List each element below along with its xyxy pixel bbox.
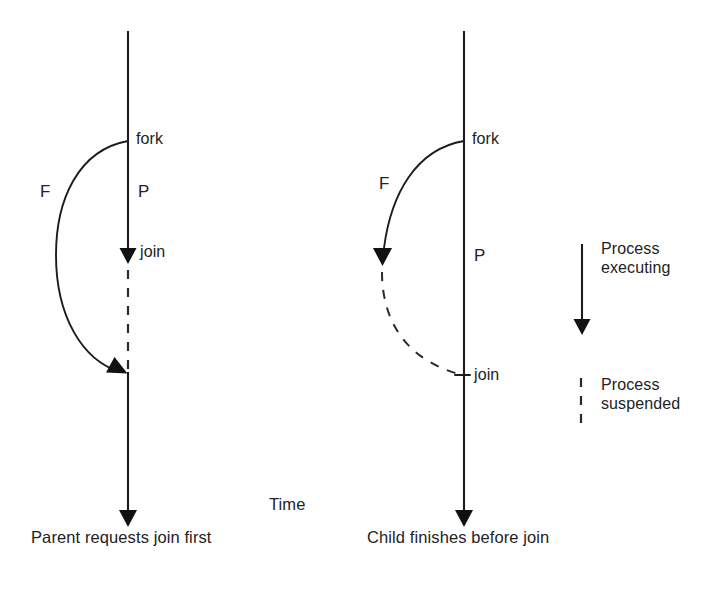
right-child-executing-curve bbox=[384, 141, 464, 248]
right-parent-label: P bbox=[474, 246, 485, 266]
legend-group bbox=[574, 244, 591, 430]
right-child-label: F bbox=[379, 174, 389, 194]
left-child-label: F bbox=[40, 182, 50, 202]
right-join-label: join bbox=[474, 366, 499, 385]
diagram-canvas bbox=[0, 0, 712, 590]
left-join-arrowhead-icon bbox=[120, 248, 137, 264]
left-fork-label: fork bbox=[136, 130, 163, 149]
left-timeline-end-arrowhead-icon bbox=[119, 510, 137, 527]
legend-executing-arrowhead-icon bbox=[574, 319, 591, 335]
right-fork-label: fork bbox=[472, 130, 499, 149]
left-diagram-caption: Parent requests join first bbox=[31, 528, 212, 547]
right-child-finish-arrowhead-icon bbox=[373, 248, 392, 266]
right-diagram-group bbox=[373, 31, 473, 527]
left-child-executing-curve bbox=[56, 141, 128, 372]
legend-executing-label-line2: executing bbox=[601, 259, 670, 278]
left-parent-label: P bbox=[138, 182, 149, 202]
right-timeline-end-arrowhead-icon bbox=[455, 510, 473, 527]
legend-suspended-label-line1: Process bbox=[601, 376, 660, 395]
left-diagram-group bbox=[56, 31, 137, 527]
right-child-suspended-dashed-curve bbox=[382, 272, 462, 375]
legend-executing-label-line1: Process bbox=[601, 240, 660, 259]
legend-suspended-label-line2: suspended bbox=[601, 395, 680, 414]
left-child-rejoin-arrowhead-icon bbox=[106, 357, 128, 374]
right-diagram-caption: Child finishes before join bbox=[367, 528, 549, 547]
fork-join-timing-diagram: fork P F join Parent requests join first… bbox=[0, 0, 712, 590]
left-join-label: join bbox=[140, 243, 165, 262]
time-axis-label: Time bbox=[269, 495, 305, 514]
